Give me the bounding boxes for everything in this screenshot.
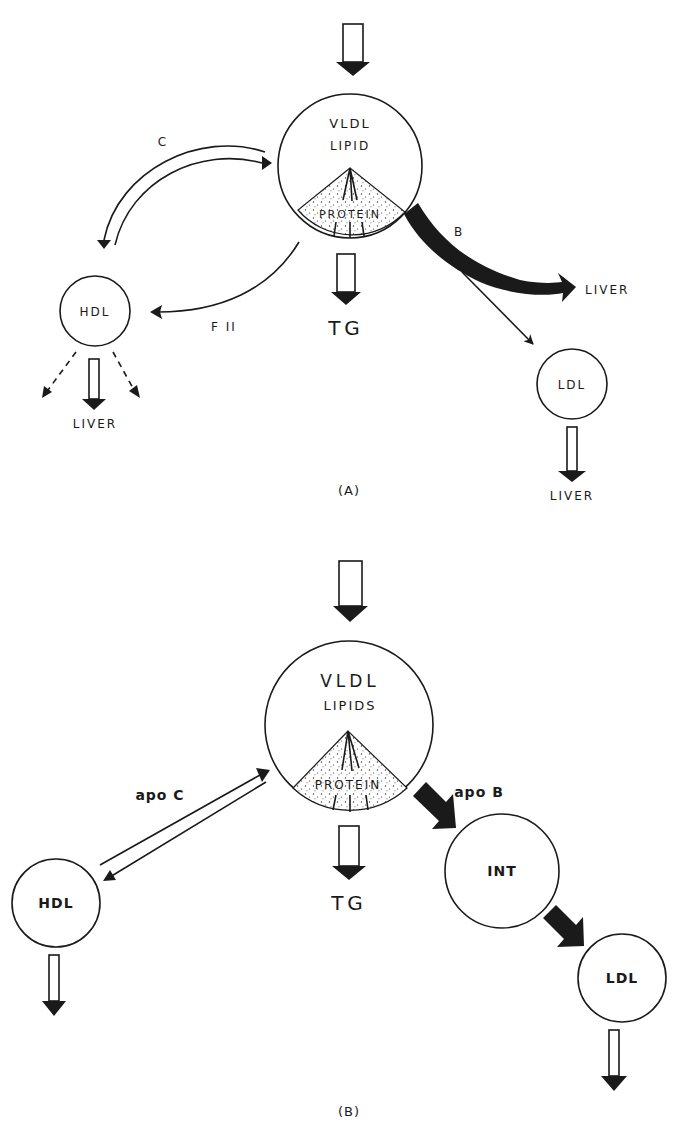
arrow-b-target-label: LIVER (585, 283, 629, 297)
vldl-subtitle: LIPIDS (323, 698, 376, 713)
vldl-subtitle: LIPID (330, 139, 370, 153)
arrow-apo-c-label: apo C (135, 787, 184, 803)
tg-output: TG (327, 254, 364, 340)
tg-label: TG (327, 316, 364, 340)
panel-a: VLDL LIPID PROTEIN C F II HDL (42, 24, 629, 503)
arrow-apo-b-label: apo B (454, 784, 504, 800)
panel-b: VLDL LIPIDS PROTEIN apo C HDL TG (12, 561, 666, 1119)
ldl-label: LDL (606, 970, 638, 986)
hdl-label: HDL (38, 895, 73, 911)
ldl-particle: LDL (578, 934, 666, 1091)
ldl-label: LDL (558, 378, 587, 392)
vldl-particle: VLDL LIPID PROTEIN (278, 94, 422, 238)
vldl-core-label: PROTEIN (319, 208, 381, 221)
vldl-core-label: PROTEIN (315, 778, 381, 792)
panel-b-caption: (B) (338, 1104, 360, 1119)
arrow-b-label: B (454, 225, 464, 239)
vldl-particle: VLDL LIPIDS PROTEIN (265, 641, 433, 812)
int-particle: INT (445, 814, 559, 928)
arrow-fii-label: F II (211, 320, 237, 334)
panel-a-caption: (A) (338, 483, 360, 498)
arrow-fii: F II (150, 242, 299, 334)
ldl-output-label: LIVER (550, 489, 594, 503)
arrow-apo-c: apo C (100, 768, 270, 881)
input-arrow-icon (336, 24, 370, 76)
hdl-output-label: LIVER (73, 417, 117, 431)
int-label: INT (487, 863, 516, 879)
hdl-particle: HDL LIVER (42, 276, 140, 431)
tg-label: TG (330, 891, 367, 915)
hdl-label: HDL (80, 305, 111, 319)
input-arrow-icon (333, 561, 368, 622)
arrow-c: C (97, 135, 272, 249)
vldl-title: VLDL (320, 671, 380, 691)
ldl-particle: LDL LIVER (537, 349, 607, 503)
arrow-b: B LIVER (404, 203, 629, 344)
hdl-particle: HDL (12, 859, 100, 1016)
lipoprotein-metabolism-diagram: VLDL LIPID PROTEIN C F II HDL (0, 0, 681, 1139)
tg-output: TG (330, 826, 367, 915)
arrow-int-to-ldl (543, 905, 584, 947)
arrow-c-label: C (158, 135, 168, 149)
vldl-title: VLDL (329, 116, 370, 131)
